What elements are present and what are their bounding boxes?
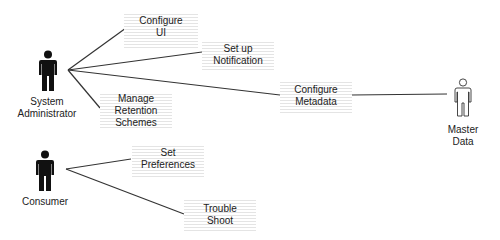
assoc-sysadmin-setup-notification	[68, 52, 202, 70]
use-case-configure-metadata: Configure Metadata	[280, 80, 352, 114]
actor-label-consumer: Consumer	[15, 196, 75, 208]
actor-master-data	[453, 78, 473, 122]
actor-label-master-data: Master Data	[440, 124, 486, 148]
assoc-consumer-set-preferences	[66, 159, 131, 169]
actor-system-administrator	[36, 50, 60, 96]
person-filled-icon	[36, 50, 60, 92]
use-case-set-up-notification: Set up Notification	[202, 40, 274, 70]
actor-consumer	[33, 150, 57, 196]
use-case-diagram: System Administrator Consumer Master Dat…	[0, 0, 500, 240]
use-case-trouble-shoot: Trouble Shoot	[184, 198, 256, 232]
use-case-manage-retention-schemes: Manage Retention Schemes	[100, 92, 172, 130]
assoc-metadata-masterdata	[351, 94, 447, 95]
use-case-configure-ui: Configure UI	[124, 12, 198, 48]
person-outline-icon	[453, 78, 473, 118]
person-filled-icon	[33, 150, 57, 192]
actor-label-system-administrator: System Administrator	[12, 96, 82, 120]
use-case-set-preferences: Set Preferences	[132, 144, 204, 178]
